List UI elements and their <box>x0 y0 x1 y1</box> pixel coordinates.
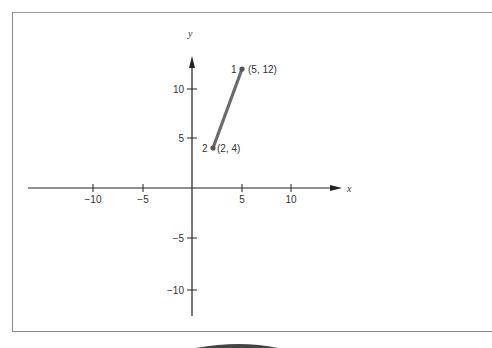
point-2-coord: (2, 4) <box>217 143 240 154</box>
y-tick-label: 5 <box>178 133 184 144</box>
point-1-coord: (5, 12) <box>248 64 277 75</box>
y-tick-label: −10 <box>167 285 184 296</box>
y-axis-label: y <box>187 28 193 39</box>
x-ticks: −10 −5 5 10 <box>85 184 297 205</box>
x-tick-label: 10 <box>285 194 297 205</box>
point-1-id: 1 <box>231 64 237 75</box>
line-segment <box>213 69 242 148</box>
x-axis-arrow-icon <box>330 185 342 191</box>
x-axis-label: x <box>346 183 352 194</box>
page-edge-shadow <box>196 344 278 348</box>
y-tick-label: −5 <box>173 233 185 244</box>
y-tick-label: 10 <box>173 84 185 95</box>
point-2-id: 2 <box>202 143 208 154</box>
x-tick-label: −5 <box>137 194 149 205</box>
x-tick-label: 5 <box>239 194 245 205</box>
y-axis-arrow-icon <box>189 56 195 68</box>
x-tick-label: −10 <box>85 194 102 205</box>
point-2-marker <box>210 145 215 150</box>
point-1-marker <box>239 66 244 71</box>
